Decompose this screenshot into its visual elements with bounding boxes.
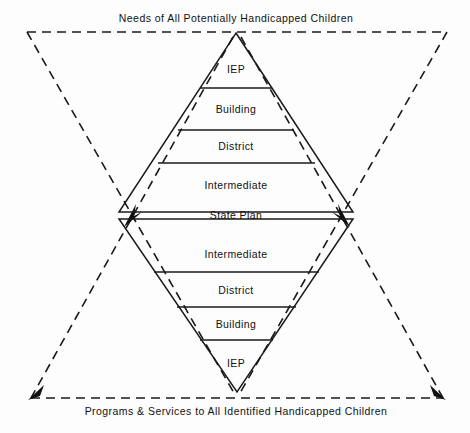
bottom-caption: Programs & Services to All Identified Ha… bbox=[85, 405, 388, 417]
band-label-upper-intermediate: Intermediate bbox=[204, 179, 267, 191]
band-label-lower-district: District bbox=[218, 284, 253, 296]
band-label-upper-building: Building bbox=[216, 103, 257, 115]
planning-diagram-svg: Needs of All Potentially Handicapped Chi… bbox=[0, 0, 470, 433]
band-label-lower-building: Building bbox=[216, 318, 257, 330]
top-caption: Needs of All Potentially Handicapped Chi… bbox=[119, 12, 353, 24]
band-label-lower-iep: IEP bbox=[227, 357, 245, 369]
band-label-upper-iep: IEP bbox=[227, 63, 245, 75]
band-label-upper-district: District bbox=[218, 140, 253, 152]
band-label-state-plan: State Plan bbox=[210, 209, 262, 221]
band-label-lower-intermediate: Intermediate bbox=[204, 248, 267, 260]
diagram-canvas: Needs of All Potentially Handicapped Chi… bbox=[0, 0, 470, 433]
